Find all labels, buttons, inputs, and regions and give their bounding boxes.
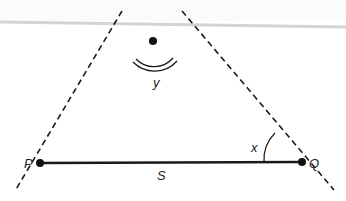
angle-y-arc-inner	[136, 58, 173, 67]
label-x: x	[250, 140, 258, 155]
top-band-background	[0, 0, 346, 21]
label-y: y	[152, 75, 161, 90]
point-q	[298, 158, 306, 166]
triangle-diagram: P Q S x y	[0, 0, 346, 201]
segment-s	[40, 162, 302, 163]
angle-x-arc	[264, 133, 275, 162]
point-p	[36, 159, 44, 167]
horizontal-rule	[0, 22, 346, 27]
label-s: S	[157, 168, 166, 183]
label-p: P	[24, 156, 33, 171]
label-q: Q	[309, 156, 319, 171]
apex-point	[149, 37, 157, 45]
